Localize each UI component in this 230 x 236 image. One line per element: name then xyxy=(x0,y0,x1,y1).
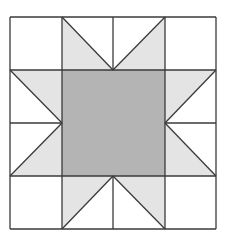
center-square xyxy=(62,70,165,176)
quilt-block-diagram xyxy=(0,0,230,236)
